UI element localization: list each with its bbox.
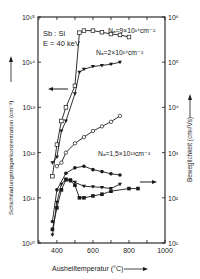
x-tick-label: 1000 [157,247,173,254]
curve-label: Nₐ=1,5×10¹³cm⁻² [98,150,151,157]
y-right-tick-label: 10² [168,195,179,202]
y-left-tick-label: 10¹⁰ [22,240,35,247]
chart: 400600800100010¹⁰10¹¹10¹²10¹³10¹⁴10¹⁵10¹… [0,0,200,279]
curve-label: Nₐ=9×10¹⁴cm⁻² [108,27,156,34]
y-left-tick-label: 10¹³ [23,104,36,111]
curve-labels: Nₐ=9×10¹⁴cm⁻²Nₐ=2×10¹⁴cm⁻²Nₐ=1,5×10¹³cm⁻… [96,27,156,157]
series-5 [50,178,122,237]
left-axis-label: Schichtladungsträgerkonzentration (cm⁻²) [7,101,14,215]
x-axis-label: Ausheiltemperatur (°C) [52,265,123,273]
y-left-tick-label: 10¹¹ [23,195,36,202]
series-4 [51,178,140,231]
y-left-tick-label: 10¹² [23,150,36,157]
y-right-tick-label: 10⁶ [168,14,179,21]
x-tick-label: 600 [87,247,99,254]
y-left-tick-label: 10¹⁵ [22,14,35,21]
x-tick-label: 400 [51,247,63,254]
left-axis-arrow-icon [9,56,13,82]
x-tick-label: 800 [123,247,135,254]
arrow-left-icon [48,87,68,91]
right-axis-label: Beweglichkeit (cm²/Vs) [186,117,194,182]
y-right-tick-label: 10¹ [168,240,179,247]
annotation-energy: E = 40 keV [43,39,80,48]
x-axis-arrow-icon [124,267,148,271]
annotation-material: Sb : Si [43,29,65,38]
y-right-tick-label: 10⁵ [168,59,179,66]
curve-label: Nₐ=2×10¹⁴cm⁻² [96,49,144,56]
y-left-tick-label: 10¹⁴ [22,59,35,66]
plot-series [50,29,139,237]
right-axis-arrow-icon [188,94,192,118]
y-right-tick-label: 10³ [168,150,179,157]
arrow-right-icon [140,180,157,184]
series-3 [51,164,122,223]
y-right-tick-label: 10⁴ [168,104,179,111]
